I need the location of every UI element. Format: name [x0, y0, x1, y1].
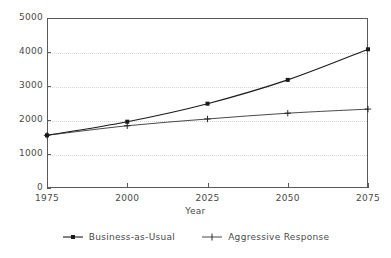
x-axis-tick-mark [368, 183, 369, 188]
y-axis-tick-label: 5000 [1, 13, 43, 22]
x-axis-tick-mark [288, 183, 289, 188]
legend-entry[interactable]: Aggressive Response [201, 232, 329, 242]
y-axis-tick-label: 4000 [1, 47, 43, 56]
y-axis-tick-mark [47, 86, 51, 87]
y-axis-tick-mark [47, 154, 51, 155]
y-axis-tick-label: 1000 [1, 149, 43, 158]
x-axis-label: Year [0, 206, 391, 216]
gridline [48, 121, 367, 122]
x-axis-tick-mark [127, 183, 128, 188]
y-axis-tick-mark [47, 18, 51, 19]
chart-legend: Business-as-UsualAggressive Response [0, 232, 391, 242]
gridline [48, 155, 367, 156]
square-marker-icon [62, 232, 84, 242]
legend-label: Aggressive Response [228, 232, 329, 242]
x-axis-tick-label: 1975 [22, 193, 72, 203]
legend-entry[interactable]: Business-as-Usual [62, 232, 175, 242]
gridline [48, 87, 367, 88]
y-axis-tick-mark [47, 52, 51, 53]
x-axis-tick-label: 2075 [343, 193, 391, 203]
chart-title [0, 0, 391, 1]
line-chart: 010002000300040005000 197520002025205020… [0, 0, 391, 258]
y-axis-tick-label: 2000 [1, 115, 43, 124]
x-axis-tick-label: 2000 [102, 193, 152, 203]
y-axis-tick-mark [47, 120, 51, 121]
gridline [48, 53, 367, 54]
y-axis-tick-label: 3000 [1, 81, 43, 90]
x-axis-tick-mark [208, 183, 209, 188]
legend-label: Business-as-Usual [89, 232, 175, 242]
y-axis-tick-label: 0 [1, 183, 43, 192]
x-axis-tick-label: 2025 [183, 193, 233, 203]
y-axis-tick-mark [47, 188, 51, 189]
x-axis-tick-label: 2050 [263, 193, 313, 203]
plus-marker-icon [201, 232, 223, 242]
plot-area [47, 18, 368, 188]
